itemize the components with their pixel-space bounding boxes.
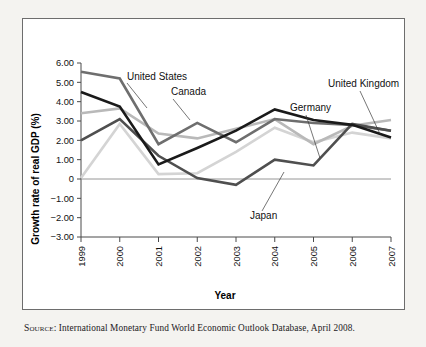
series-annotations: United StatesCanadaGermanyUnited Kingdom…: [127, 71, 399, 221]
y-axis-tick-label: 5.00: [56, 78, 74, 88]
x-axis-title-text: Year: [214, 290, 235, 301]
series-label-canada: Canada: [171, 86, 206, 97]
x-axis-tick-label: 1999: [77, 246, 87, 267]
x-axis-tick-label: 2002: [193, 246, 203, 267]
y-axis-tick-label: 1.00: [56, 155, 74, 165]
x-axis-tick-label: 2003: [232, 246, 242, 267]
y-axis-tick-label: 2.00: [56, 136, 74, 146]
x-axis-tick-label: 2004: [270, 246, 280, 267]
y-axis-tick-label: 0: [69, 174, 74, 184]
x-axis-tick-label: 2007: [387, 246, 397, 267]
x-axis-tick-label: 2001: [154, 246, 164, 267]
figure-page: Growth rate of real GDP (%) 6.005.004.00…: [0, 0, 426, 347]
y-axis-tick-label: −2.00: [50, 213, 74, 223]
series-label-united-kingdom: United Kingdom: [328, 78, 399, 89]
x-axis-tick-label: 2005: [309, 246, 319, 267]
series-label-germany: Germany: [290, 102, 331, 113]
y-axis-tick-label: 4.00: [56, 97, 74, 107]
y-axis-tick-label: 6.00: [56, 58, 74, 68]
leader-line-japan: [262, 172, 284, 211]
y-axis: 6.005.004.003.002.001.000−1.00−2.00−3.00: [50, 58, 81, 242]
y-axis-tick-label: −3.00: [50, 232, 74, 242]
y-axis-title: Growth rate of real GDP (%): [30, 113, 41, 245]
series-label-united-states: United States: [127, 71, 187, 82]
series-label-japan: Japan: [250, 210, 277, 221]
chart-frame: Growth rate of real GDP (%) 6.005.004.00…: [22, 18, 405, 310]
leader-line-canada: [173, 99, 190, 120]
y-axis-tick-label: 3.00: [56, 116, 74, 126]
x-axis: 199920002001200220032004200520062007: [77, 237, 397, 267]
source-label: Source:: [24, 322, 56, 333]
y-axis-title-text: Growth rate of real GDP (%): [30, 113, 41, 245]
source-body: International Monetary Fund World Econom…: [56, 323, 354, 333]
gdp-growth-line-chart: Growth rate of real GDP (%) 6.005.004.00…: [23, 19, 403, 308]
x-axis-tick-label: 2006: [348, 246, 358, 267]
source-note: Source: International Monetary Fund Worl…: [24, 322, 414, 333]
y-axis-tick-label: −1.00: [50, 194, 74, 204]
x-axis-tick-label: 2000: [115, 246, 125, 267]
